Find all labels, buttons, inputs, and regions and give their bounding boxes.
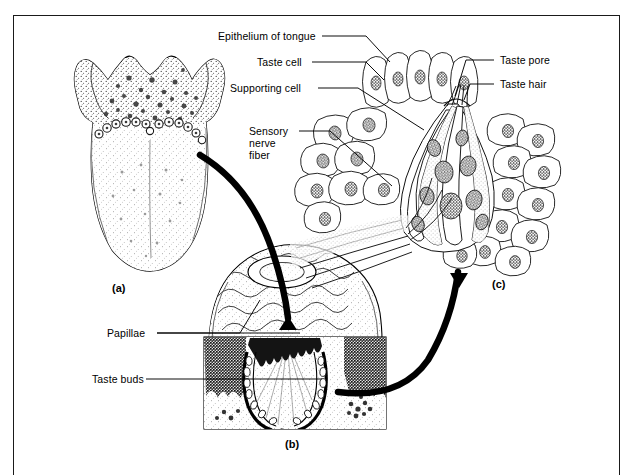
label-supporting-cell: Supporting cell	[230, 82, 301, 95]
label-taste-pore: Taste pore	[500, 54, 550, 67]
panel-b-tag: (b)	[285, 438, 299, 450]
label-epithelium-of-tongue: Epithelium of tongue	[218, 30, 316, 43]
panel-b-papilla-block	[200, 240, 390, 439]
label-taste-buds: Taste buds	[92, 373, 144, 386]
panel-c-tag: (c)	[492, 278, 506, 290]
label-papillae: Papillae	[107, 327, 145, 340]
taste-bud-body	[400, 84, 494, 252]
label-taste-hair: Taste hair	[500, 78, 547, 91]
label-sensory-nerve-fiber-line2: nerve	[249, 137, 276, 150]
label-sensory-nerve-fiber-line3: fiber	[249, 149, 270, 162]
label-sensory-nerve-fiber-line1: Sensory	[249, 125, 288, 138]
label-taste-cell: Taste cell	[257, 56, 302, 69]
panel-a-tag: (a)	[112, 282, 126, 294]
